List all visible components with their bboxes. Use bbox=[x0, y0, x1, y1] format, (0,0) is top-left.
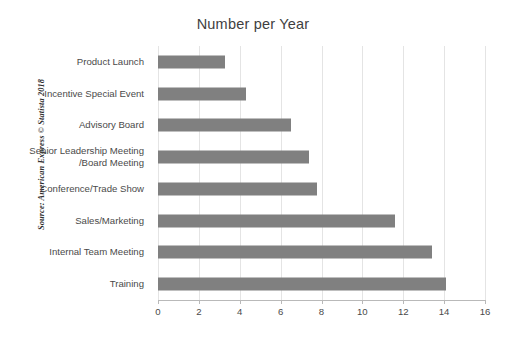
bar-row bbox=[158, 78, 485, 110]
x-tick-label-4: 4 bbox=[225, 306, 255, 317]
y-axis-label-line: Incentive Special Event bbox=[0, 88, 144, 100]
bar-chart: Number per Year Source: American Express… bbox=[0, 0, 506, 342]
y-axis-label-line: Product Launch bbox=[0, 56, 144, 68]
bar-row bbox=[158, 173, 485, 205]
x-tickmark-2 bbox=[199, 300, 200, 304]
x-tickmark-8 bbox=[322, 300, 323, 304]
bar-row bbox=[158, 268, 485, 300]
x-tick-label-16: 16 bbox=[470, 306, 500, 317]
bar-row bbox=[158, 141, 485, 173]
bar-row bbox=[158, 46, 485, 78]
chart-title: Number per Year bbox=[0, 16, 506, 32]
y-axis-label-line: Advisory Board bbox=[0, 119, 144, 131]
y-axis-label: Sales/Marketing bbox=[0, 205, 151, 237]
y-axis-label-line: Internal Team Meeting bbox=[0, 246, 144, 258]
x-tickmark-6 bbox=[281, 300, 282, 304]
x-tick-label-2: 2 bbox=[184, 306, 214, 317]
x-tickmark-14 bbox=[444, 300, 445, 304]
y-axis-label-line: Training bbox=[0, 278, 144, 290]
y-axis-label: Internal Team Meeting bbox=[0, 237, 151, 269]
x-tick-label-0: 0 bbox=[143, 306, 173, 317]
bar bbox=[158, 55, 225, 68]
bar bbox=[158, 278, 446, 291]
y-axis-label: Incentive Special Event bbox=[0, 78, 151, 110]
x-tick-label-10: 10 bbox=[347, 306, 377, 317]
x-tick-label-12: 12 bbox=[388, 306, 418, 317]
y-axis-label: Product Launch bbox=[0, 46, 151, 78]
bar bbox=[158, 87, 246, 100]
x-tickmark-0 bbox=[158, 300, 159, 304]
x-tickmark-16 bbox=[485, 300, 486, 304]
y-axis-label-line: Sales/Marketing bbox=[0, 215, 144, 227]
x-tick-label-6: 6 bbox=[266, 306, 296, 317]
bar bbox=[158, 246, 432, 259]
y-axis-label: Conference/Trade Show bbox=[0, 173, 151, 205]
bar-row bbox=[158, 110, 485, 142]
bar-row bbox=[158, 205, 485, 237]
x-tick-label-14: 14 bbox=[429, 306, 459, 317]
y-axis-label: Training bbox=[0, 268, 151, 300]
plot-area bbox=[158, 46, 485, 300]
bar bbox=[158, 151, 309, 164]
x-tickmark-10 bbox=[362, 300, 363, 304]
x-tickmark-4 bbox=[240, 300, 241, 304]
gridline-16 bbox=[485, 46, 486, 300]
y-axis-label-line: /Board Meeting bbox=[0, 157, 144, 169]
y-axis-label: Advisory Board bbox=[0, 110, 151, 142]
x-tick-label-8: 8 bbox=[307, 306, 337, 317]
y-axis-label-line: Conference/Trade Show bbox=[0, 183, 144, 195]
bar bbox=[158, 214, 395, 227]
bar-row bbox=[158, 237, 485, 269]
bar bbox=[158, 119, 291, 132]
y-axis-label: Senior Leadership Meeting/Board Meeting bbox=[0, 141, 151, 173]
x-tickmark-12 bbox=[403, 300, 404, 304]
y-axis-label-line: Senior Leadership Meeting bbox=[0, 145, 144, 157]
bar bbox=[158, 182, 317, 195]
